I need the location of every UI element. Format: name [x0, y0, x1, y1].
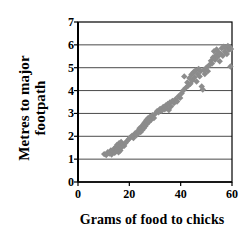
data-point [181, 73, 187, 79]
scatter-chart: Metres to major footpath 01234567 020406… [0, 0, 248, 237]
plot-area [0, 0, 248, 237]
data-point [227, 63, 233, 69]
axis-ticks [74, 22, 232, 186]
data-points [101, 43, 234, 158]
frame-rect [78, 22, 232, 182]
plot-frame [78, 22, 232, 182]
x-axis-title: Grams of food to chicks [62, 212, 242, 228]
